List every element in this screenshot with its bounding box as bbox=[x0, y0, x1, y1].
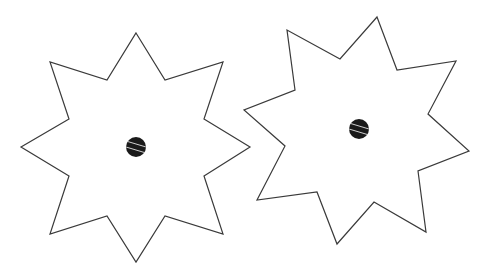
right-center-dot bbox=[349, 119, 369, 139]
left-center-dot bbox=[126, 137, 146, 157]
right-star-group bbox=[244, 17, 469, 244]
two-stars-diagram bbox=[0, 0, 493, 277]
left-star-group bbox=[21, 33, 250, 262]
